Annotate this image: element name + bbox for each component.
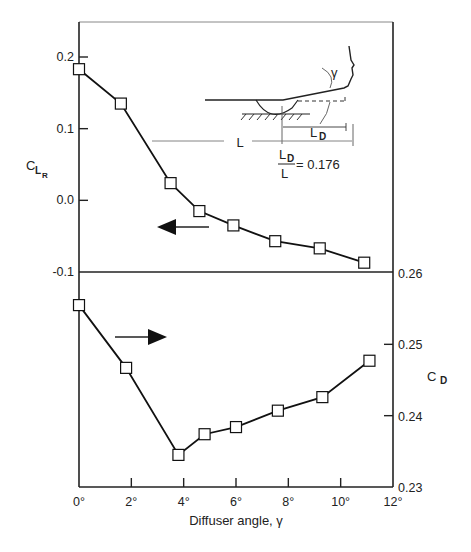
x-tick-label: 2°	[125, 495, 137, 509]
data-marker	[115, 98, 126, 109]
data-marker	[173, 449, 184, 460]
data-marker	[74, 64, 85, 75]
inset-diagram: γ L D L L D L = 0.176	[152, 46, 354, 181]
ld-label: L	[310, 125, 317, 140]
ground-hatch	[241, 114, 302, 120]
data-marker	[270, 236, 281, 247]
chart: 0.20.10.0-0.1 0.260.250.240.23 0°2°4°6°8…	[0, 0, 471, 552]
left-arrow-icon	[157, 219, 209, 235]
ratio-numerator: L	[279, 147, 286, 162]
x-tick-label: 8°	[282, 495, 294, 509]
ld-sub: D	[319, 131, 326, 142]
y-left-tick-label: 0.1	[57, 122, 74, 136]
data-marker	[231, 422, 242, 433]
data-marker	[121, 362, 132, 373]
data-marker	[165, 178, 176, 189]
y-left-tick-label: -0.1	[52, 265, 74, 279]
data-marker	[228, 220, 239, 231]
data-marker	[74, 300, 85, 311]
y-right-tick-label: 0.23	[398, 481, 422, 495]
right-y-ticks: 0.260.250.240.23	[384, 267, 422, 495]
ratio-numerator-sub: D	[287, 153, 294, 164]
data-marker	[194, 206, 205, 217]
x-tick-label: 6°	[230, 495, 242, 509]
x-axis-title: Diffuser angle, γ	[189, 513, 283, 528]
angle-arc-lower	[320, 102, 330, 124]
ylabel-cd-sub: D	[440, 375, 447, 386]
ylabel-clr-subsub: R	[42, 171, 48, 180]
ratio-value: = 0.176	[296, 157, 340, 172]
ratio-denominator: L	[281, 166, 288, 181]
data-marker	[314, 243, 325, 254]
x-ticks: 0°2°4°6°8°10°12°	[73, 478, 402, 509]
y-right-tick-label: 0.25	[398, 338, 422, 352]
ylabel-clr-main: C	[26, 158, 35, 173]
data-marker	[317, 392, 328, 403]
ylabel-cd-main: C	[427, 369, 436, 384]
x-tick-label: 12°	[384, 495, 403, 509]
chart-svg: 0.20.10.0-0.1 0.260.250.240.23 0°2°4°6°8…	[0, 0, 471, 552]
x-tick-label: 4°	[178, 495, 190, 509]
data-marker	[359, 257, 370, 268]
data-marker	[199, 429, 210, 440]
l-label: L	[236, 135, 243, 150]
x-tick-label: 10°	[331, 495, 350, 509]
ylabel-clr-sub: L	[35, 165, 41, 176]
data-marker	[272, 405, 283, 416]
y-left-tick-label: 0.0	[57, 193, 74, 207]
y-right-title: C D	[427, 369, 447, 386]
data-marker	[364, 355, 375, 366]
y-right-tick-label: 0.26	[398, 267, 422, 281]
x-tick-label: 0°	[73, 495, 85, 509]
gamma-label: γ	[331, 65, 338, 80]
lower-series-cd	[74, 300, 375, 461]
y-left-tick-label: 0.2	[57, 50, 74, 64]
y-right-tick-label: 0.24	[398, 410, 422, 424]
y-left-title: C L R	[26, 158, 48, 180]
plot-frame	[79, 22, 393, 487]
right-arrow-icon	[115, 329, 167, 345]
left-y-ticks: 0.20.10.0-0.1	[52, 50, 88, 279]
wheel	[256, 100, 298, 114]
